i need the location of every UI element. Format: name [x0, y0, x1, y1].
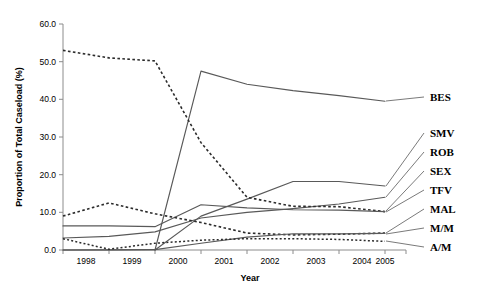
legend-label-am: A/M: [430, 241, 452, 253]
legend-label-bes: BES: [430, 91, 451, 103]
xtick-label-2003: 2003: [307, 256, 326, 266]
series-line-bes: [155, 71, 385, 250]
xtick-label-1999: 1999: [123, 256, 142, 266]
ytick-label-20: 20.0: [39, 170, 56, 180]
xtick-label-1998: 1998: [77, 256, 96, 266]
line-chart: 0.0 10.0 20.0 30.0 40.0 50.0 60.0 1998 1…: [0, 0, 488, 291]
ytick-label-30: 30.0: [39, 132, 56, 142]
ytick-label-50: 50.0: [39, 57, 56, 67]
ytick-label-10: 10.0: [39, 207, 56, 217]
series-line-sex: [63, 50, 385, 211]
x-axis-title: Year: [240, 273, 260, 283]
ytick-label-60: 60.0: [39, 19, 56, 29]
xtick-label-2000: 2000: [169, 256, 188, 266]
y-axis-title: Proportion of Total Caseload (%): [14, 67, 24, 206]
ytick-label-40: 40.0: [39, 94, 56, 104]
legend-label-tfv: TFV: [430, 184, 452, 196]
legend-label-mal: MAL: [430, 203, 456, 215]
xtick-label-2005: 2005: [376, 256, 395, 266]
legend-label-rob: ROB: [430, 146, 455, 158]
xtick-label-2002: 2002: [261, 256, 280, 266]
legend-label-mm: M/M: [430, 222, 454, 234]
xtick-label-2004: 2004: [353, 256, 372, 266]
x-axis-ticks: [63, 250, 406, 254]
legend-label-smv: SMV: [430, 127, 455, 139]
xtick-label-2001: 2001: [215, 256, 234, 266]
legend-leader-lines: [386, 97, 424, 247]
ytick-label-0: 0.0: [44, 245, 56, 255]
series-layer: [63, 50, 385, 250]
chart-container: 0.0 10.0 20.0 30.0 40.0 50.0 60.0 1998 1…: [0, 0, 488, 291]
series-line-smv: [155, 181, 385, 250]
y-axis-ticks: [59, 24, 63, 250]
legend-label-sex: SEX: [430, 165, 451, 177]
